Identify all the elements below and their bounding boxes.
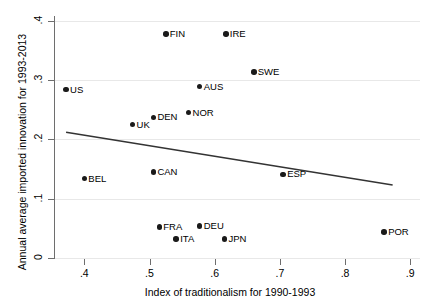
data-point-label: BEL (88, 173, 106, 184)
data-point-label: FIN (170, 28, 185, 39)
x-tick-label: .8 (333, 267, 357, 279)
gridline-y (55, 80, 420, 81)
x-tick-mark (280, 259, 281, 265)
data-point-label: AUS (204, 81, 224, 92)
plot-area (55, 16, 420, 258)
y-tick-label: .2 (32, 130, 44, 146)
x-tick-mark (150, 259, 151, 265)
data-point-label: DEN (157, 111, 177, 122)
y-tick-mark (48, 80, 55, 81)
x-tick-mark (215, 259, 216, 265)
data-point-marker (251, 69, 257, 75)
data-point-marker (157, 224, 163, 230)
data-point-marker (63, 87, 69, 93)
data-point-label: POR (388, 226, 409, 237)
y-tick-mark (48, 258, 55, 259)
x-tick-mark (84, 259, 85, 265)
gridline-y (55, 258, 420, 259)
gridline-y (55, 139, 420, 140)
x-tick-mark (345, 259, 346, 265)
data-point-label: ITA (180, 233, 194, 244)
data-point-marker (381, 229, 387, 235)
data-point-marker (222, 236, 228, 242)
x-tick-label: .4 (72, 267, 96, 279)
y-tick-mark (48, 199, 55, 200)
y-axis-title: Annual average imported innovation for 1… (14, 18, 30, 286)
data-point-label: FRA (163, 221, 182, 232)
x-tick-mark (410, 259, 411, 265)
data-point-label: NOR (193, 107, 214, 118)
data-point-marker (223, 31, 229, 37)
data-point-marker (173, 236, 179, 242)
x-tick-label: .5 (138, 267, 162, 279)
data-point-label: CAN (157, 166, 177, 177)
data-point-marker (280, 172, 286, 178)
data-point-label: DEU (204, 220, 224, 231)
data-point-label: US (70, 84, 83, 95)
scatter-plot-figure: Annual average imported innovation for 1… (0, 0, 427, 308)
data-point-label: ESP (287, 168, 306, 179)
y-tick-mark (48, 21, 55, 22)
data-point-marker (163, 31, 169, 37)
data-point-label: JPN (228, 233, 246, 244)
y-tick-label: .4 (32, 12, 44, 28)
gridline-y (55, 21, 420, 22)
x-tick-label: .9 (398, 267, 422, 279)
data-point-label: SWE (258, 66, 280, 77)
data-point-label: UK (137, 119, 150, 130)
y-tick-mark (48, 139, 55, 140)
data-point-label: IRE (230, 28, 246, 39)
x-axis-title: Index of traditionalism for 1990-1993 (55, 286, 405, 298)
y-tick-label: .1 (32, 190, 44, 206)
gridline-y (55, 199, 420, 200)
y-tick-label: .3 (32, 71, 44, 87)
data-point-marker (151, 169, 157, 175)
y-tick-label: 0 (32, 249, 44, 265)
x-tick-label: .7 (268, 267, 292, 279)
x-tick-label: .6 (203, 267, 227, 279)
